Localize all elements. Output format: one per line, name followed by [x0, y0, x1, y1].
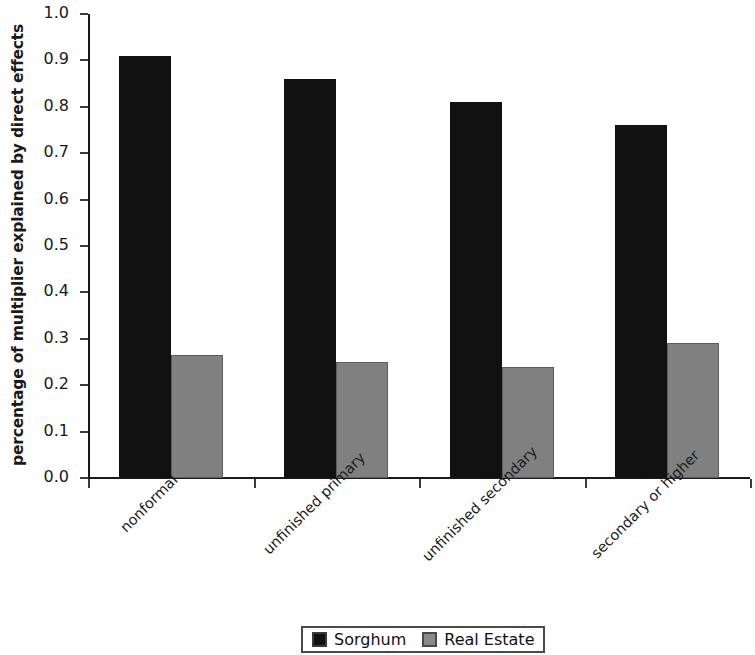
legend-swatch-real-estate	[422, 632, 437, 647]
y-axis-tick-label: 0.0	[7, 467, 69, 486]
x-axis-tick	[585, 479, 587, 488]
y-axis-tick	[80, 477, 88, 479]
legend-swatch-sorghum	[312, 632, 327, 647]
bar-sorghum	[284, 79, 336, 478]
y-axis-tick-label: 0.8	[7, 96, 69, 115]
x-axis-label: nonformal	[117, 472, 181, 536]
legend-entry-sorghum: Sorghum	[312, 630, 406, 649]
x-axis-tick	[254, 479, 256, 488]
y-axis-tick	[80, 384, 88, 386]
plot-area	[88, 14, 750, 478]
y-axis-tick-label: 0.3	[7, 328, 69, 347]
bar-sorghum	[119, 56, 171, 478]
y-axis-tick-label: 0.2	[7, 374, 69, 393]
x-axis-tick	[419, 479, 421, 488]
legend-entry-real-estate: Real Estate	[422, 630, 534, 649]
bar-sorghum	[615, 125, 667, 478]
y-axis-tick	[80, 199, 88, 201]
y-axis-tick	[80, 431, 88, 433]
y-axis-tick-label: 0.1	[7, 421, 69, 440]
bar-real-estate	[171, 355, 223, 478]
y-axis-tick	[80, 106, 88, 108]
x-axis-tick	[88, 479, 90, 488]
legend-label-real-estate: Real Estate	[444, 630, 534, 649]
bar-sorghum	[450, 102, 502, 478]
y-axis-tick-label: 0.4	[7, 281, 69, 300]
y-axis-tick	[80, 59, 88, 61]
legend-label-sorghum: Sorghum	[334, 630, 406, 649]
y-axis-tick	[80, 13, 88, 15]
y-axis-tick-label: 0.5	[7, 235, 69, 254]
y-axis-tick	[80, 291, 88, 293]
y-axis-tick-label: 0.9	[7, 49, 69, 68]
y-axis-tick-label: 0.7	[7, 142, 69, 161]
y-axis-tick	[80, 245, 88, 247]
x-axis-tick	[750, 479, 752, 488]
y-axis-tick-label: 1.0	[7, 3, 69, 22]
chart-legend: Sorghum Real Estate	[301, 626, 545, 653]
y-axis-tick	[80, 152, 88, 154]
y-axis-tick-label: 0.6	[7, 189, 69, 208]
y-axis-tick	[80, 338, 88, 340]
bar-chart: percentage of multiplier explained by di…	[0, 0, 755, 655]
